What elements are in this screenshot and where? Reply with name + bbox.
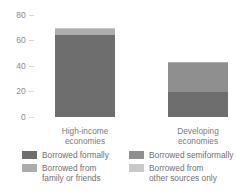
legend-label: Borrowed from family or friends xyxy=(42,163,101,183)
y-axis-tick-label: 20 xyxy=(0,87,26,96)
legend-swatch-icon xyxy=(129,151,144,159)
y-axis-tick-label: 60 xyxy=(0,36,26,45)
plot-area: 80 60 40 20 0 xyxy=(0,0,236,126)
legend-label: Borrowed formally xyxy=(42,150,109,160)
legend-item-borrowed-from-other-sources-only[interactable]: Borrowed from other sources only xyxy=(129,163,236,183)
bar-segment xyxy=(168,63,228,91)
x-axis-category-label-1: Developing economies xyxy=(143,126,236,146)
category-label-line1: Developing xyxy=(143,126,236,136)
category-label-line2: economies xyxy=(143,136,236,146)
y-axis-tick-mark xyxy=(29,40,34,41)
y-axis-tick-label: 0 xyxy=(0,113,26,122)
legend-swatch-icon xyxy=(22,164,37,172)
legend-label: Borrowed semiformally xyxy=(149,150,233,160)
bar-segment xyxy=(55,35,115,117)
stacked-bar-chart: 80 60 40 20 0 High-income economies Deve… xyxy=(0,0,236,192)
legend-item-borrowed-formally[interactable]: Borrowed formally xyxy=(22,150,129,160)
y-axis-tick-mark xyxy=(29,66,34,67)
category-label-line2: economies xyxy=(30,136,140,146)
legend-swatch-icon xyxy=(129,164,144,172)
bar-segment xyxy=(168,92,228,118)
y-axis-tick-mark xyxy=(29,91,34,92)
category-label-line1: High-income xyxy=(30,126,140,136)
x-axis-category-label-0: High-income economies xyxy=(30,126,140,146)
legend-item-borrowed-semiformally[interactable]: Borrowed semiformally xyxy=(129,150,236,160)
y-axis-tick-label: 40 xyxy=(0,62,26,71)
legend-swatch-icon xyxy=(22,151,37,159)
bar-high-income-economies[interactable] xyxy=(55,28,115,117)
legend-item-borrowed-from-family-or-friends[interactable]: Borrowed from family or friends xyxy=(22,163,129,183)
y-axis-tick-mark xyxy=(29,15,34,16)
y-axis-tick-mark xyxy=(29,117,34,118)
chart-legend: Borrowed formally Borrowed semiformally … xyxy=(22,150,236,186)
legend-label: Borrowed from other sources only xyxy=(149,163,217,183)
y-axis-tick-label: 80 xyxy=(0,11,26,20)
bar-developing-economies[interactable] xyxy=(168,62,228,117)
